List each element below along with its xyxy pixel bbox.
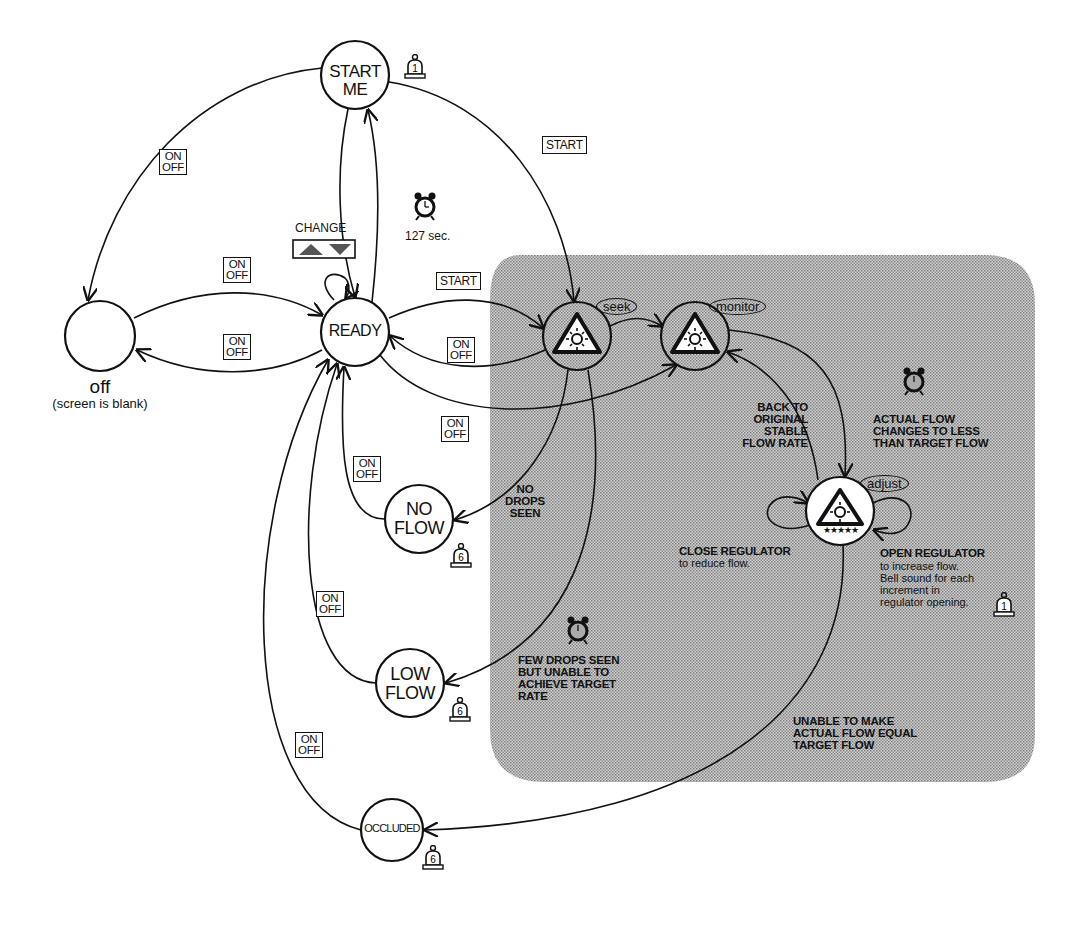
on-off-button: ONOFF [159,149,187,175]
on-off-button: ONOFF [223,257,251,283]
note-actual-flow-changes: ACTUAL FLOW CHANGES TO LESS THAN TARGET … [873,413,988,449]
state-diagram: 1 6 6 6 1 START ME READY NO FLOW LOW FLO… [0,0,1081,939]
bell-icon: 1 [993,592,1015,618]
stars-indicator: ★★★★★ [813,526,867,535]
tag-monitor: monitor [709,298,766,315]
change-arrows-icon [293,240,355,258]
tag-seek: seek [596,298,637,315]
state-label-start-me: START ME [321,63,389,99]
on-off-button: ONOFF [223,334,251,360]
change-label: CHANGE [295,222,346,235]
bell-icon: 6 [422,845,444,871]
timer-label: 127 sec. [405,230,450,243]
alarm-clock-icon [415,193,436,221]
note-few-drops: FEW DROPS SEEN BUT UNABLE TO ACHIEVE TAR… [518,654,619,702]
svg-text:1: 1 [1001,601,1007,612]
note-close-regulator-title: CLOSE REGULATOR [679,545,791,557]
note-open-regulator-body: to increase flow. Bell sound for each in… [880,560,974,608]
state-label-no-flow: NO FLOW [385,500,453,538]
note-open-regulator-title: OPEN REGULATOR [880,547,985,559]
state-label-occluded: OCCLUDED [361,823,423,835]
note-no-drops: NO DROPS SEEN [500,483,550,519]
on-off-button: ONOFF [353,456,381,482]
note-back-to-original: BACK TO ORIGINAL STABLE FLOW RATE [738,401,808,449]
tag-adjust: adjust [860,475,909,492]
bell-icon: 6 [449,697,471,723]
on-off-button: ONOFF [447,337,475,363]
state-label-ready: READY [321,323,389,340]
on-off-button: ONOFF [295,732,323,758]
state-off [65,301,135,371]
bell-icon: 1 [404,54,426,80]
note-close-regulator-body: to reduce flow. [679,558,750,570]
svg-text:6: 6 [430,854,436,865]
start-button-label: START [436,272,481,290]
note-unable-to-make: UNABLE TO MAKE ACTUAL FLOW EQUAL TARGET … [793,715,917,751]
off-title: off [45,378,155,396]
bell-icon: 6 [450,543,472,569]
start-button-label: START [542,136,587,154]
svg-text:6: 6 [458,552,464,563]
state-label-low-flow: LOW FLOW [376,665,444,703]
svg-text:6: 6 [457,706,463,717]
on-off-button: ONOFF [441,416,469,442]
off-subtitle: (screen is blank) [45,396,155,411]
off-caption: off (screen is blank) [45,378,155,411]
svg-text:1: 1 [412,63,418,74]
on-off-button: ONOFF [316,591,344,617]
diagram-canvas [0,0,1081,939]
